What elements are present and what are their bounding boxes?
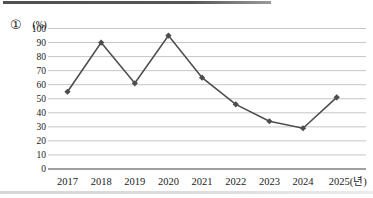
x-tick-label: 2021 [192, 176, 213, 187]
x-tick-label: 2020 [158, 176, 179, 187]
x-tick-label: 2023 [259, 176, 280, 187]
answer-choice-marker: ① [10, 18, 22, 32]
y-tick-label: 60 [37, 80, 47, 90]
y-tick-label: 0 [41, 164, 46, 174]
x-tick-label: 2025(년) [329, 176, 367, 188]
bottom-border-rule [0, 191, 373, 194]
chart-panel: ① (%) 0102030405060708090100201720182019… [0, 0, 373, 198]
line-chart-canvas: (%) 010203040506070809010020172018201920… [0, 0, 373, 198]
y-tick-label: 10 [37, 150, 47, 160]
y-tick-label: 20 [37, 136, 47, 146]
x-tick-label: 2024 [293, 176, 315, 187]
x-tick-label: 2022 [225, 176, 246, 187]
data-line [68, 36, 337, 129]
y-tick-label: 80 [37, 52, 47, 62]
y-tick-label: 30 [37, 122, 47, 132]
x-tick-label: 2017 [57, 176, 78, 187]
x-tick-label: 2019 [124, 176, 145, 187]
y-tick-label: 70 [37, 66, 47, 76]
y-tick-label: 100 [32, 24, 47, 34]
x-tick-label: 2018 [91, 176, 112, 187]
data-point-marker [266, 118, 272, 124]
y-tick-label: 50 [37, 94, 47, 104]
top-border-rule [3, 1, 271, 4]
y-tick-label: 40 [37, 108, 47, 118]
y-tick-label: 90 [37, 38, 47, 48]
